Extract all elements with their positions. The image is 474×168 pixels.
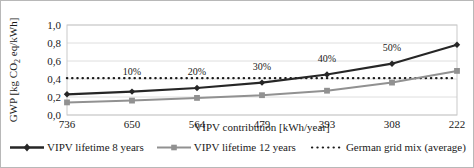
x-tick-label: 650 — [124, 118, 141, 130]
x-tick-label: 308 — [384, 118, 401, 130]
percentage-label: 20% — [188, 66, 206, 77]
data-point-marker — [259, 92, 265, 98]
legend-item-german-grid-mix: German grid mix (average) — [309, 142, 466, 153]
legend-label-german-grid-mix: German grid mix (average) — [346, 142, 466, 153]
data-point-marker — [454, 68, 460, 74]
data-point-marker — [389, 80, 395, 86]
y-tick-label: 1,0 — [47, 19, 61, 31]
chart-plot-area: 0,00,20,40,60,81,0 736650564479393308222… — [1, 1, 474, 133]
legend-swatch-german-grid-mix — [309, 142, 343, 153]
legend-swatch-vipv-12-years — [157, 142, 191, 153]
x-tick-label: 222 — [449, 118, 466, 130]
legend-swatch-vipv-8-years — [10, 142, 44, 153]
y-axis-tick-labels: 0,00,20,40,60,81,0 — [47, 19, 61, 121]
line-chart-svg: 0,00,20,40,60,81,0 736650564479393308222… — [1, 1, 474, 133]
x-axis-title: VIPV contribution [kWh/year] — [194, 121, 329, 133]
percentage-label: 10% — [123, 66, 141, 77]
data-point-marker — [64, 100, 70, 106]
legend-label-vipv-8-years: VIPV lifetime 8 years — [47, 142, 144, 153]
chart-legend: VIPV lifetime 8 years VIPV lifetime 12 y… — [1, 137, 474, 157]
x-tick-label: 736 — [59, 118, 76, 130]
y-tick-label: 0,8 — [47, 37, 61, 49]
legend-item-vipv-12-years: VIPV lifetime 12 years — [157, 142, 296, 153]
y-axis-title: GWP [kg CO2 eq/kWh] — [7, 18, 22, 123]
y-tick-label: 0,4 — [47, 73, 61, 85]
data-point-marker — [324, 88, 330, 94]
data-point-marker — [129, 98, 135, 104]
y-tick-label: 0,6 — [47, 55, 61, 67]
percentage-label: 30% — [253, 61, 271, 72]
legend-label-vipv-12-years: VIPV lifetime 12 years — [194, 142, 296, 153]
percentage-label: 40% — [318, 53, 336, 64]
legend-item-vipv-8-years: VIPV lifetime 8 years — [10, 142, 144, 153]
y-tick-label: 0,2 — [47, 91, 61, 103]
data-point-marker — [194, 95, 200, 101]
chart-figure: 0,00,20,40,60,81,0 736650564479393308222… — [0, 0, 474, 168]
percentage-label: 50% — [383, 42, 401, 53]
